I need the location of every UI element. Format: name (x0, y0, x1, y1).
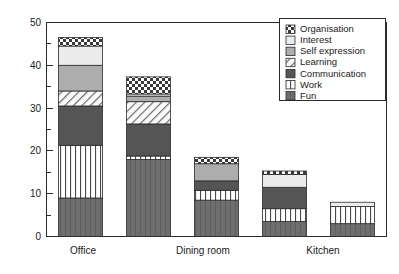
legend-label-self-expression: Self expression (300, 45, 365, 56)
y-axis-label-0: 0 (35, 231, 41, 242)
x-axis-label-office: Office (70, 245, 96, 256)
legend-swatch-communication (286, 69, 295, 77)
y-axis-label-20: 20 (30, 145, 42, 156)
x-axis-label-kitchen: Kitchen (306, 245, 339, 256)
y-axis-label-10: 10 (30, 188, 42, 199)
bar-segment-self-expression (59, 65, 103, 91)
bar-segment-fun (59, 198, 103, 237)
bar-segment-fun (331, 224, 375, 237)
bar-segment-fun (263, 222, 307, 237)
y-axis-label-30: 30 (30, 103, 42, 114)
legend-swatch-organisation (286, 25, 295, 33)
bar-group (263, 171, 307, 236)
bar-segment-self-expression (127, 96, 171, 102)
bar-segment-interest (263, 174, 307, 187)
legend-label-interest: Interest (300, 34, 332, 45)
bar-segment-work (195, 190, 239, 200)
bar-segment-communication (127, 124, 171, 156)
bar-segment-learning (127, 102, 171, 124)
legend: OrganisationInterestSelf expressionLearn… (280, 19, 386, 101)
legend-swatch-self-expression (286, 47, 295, 55)
bar-segment-communication (263, 187, 307, 208)
y-axis-label-40: 40 (30, 60, 42, 71)
bar-segment-work (127, 156, 171, 159)
bar-segment-interest (331, 202, 375, 206)
bar-segment-learning (59, 91, 103, 106)
bar-segment-fun (127, 159, 171, 236)
bar-segment-work (263, 209, 307, 222)
bar-segment-work (331, 207, 375, 224)
bar-group (331, 202, 375, 236)
bar-group (127, 77, 171, 237)
bar-segment-organisation (195, 157, 239, 163)
bar-segment-fun (195, 200, 239, 236)
legend-label-fun: Fun (300, 90, 316, 101)
x-axis-label-dining-room: Dining room (176, 245, 230, 256)
y-axis-label-50: 50 (30, 17, 42, 28)
legend-swatch-interest (286, 36, 295, 44)
stacked-bar-chart: 0 10 20 30 40 50 Office Dining room Kitc… (0, 0, 399, 274)
bar-segment-interest (59, 46, 103, 65)
legend-swatch-work (286, 81, 295, 89)
bar-group (59, 37, 103, 236)
legend-swatch-fun (286, 92, 295, 100)
legend-label-communication: Communication (300, 68, 366, 79)
legend-label-work: Work (300, 79, 322, 90)
bar-segment-organisation (127, 77, 171, 94)
legend-swatch-learning (286, 58, 295, 66)
bar-segment-self-expression (195, 164, 239, 181)
bar-segment-organisation (263, 171, 307, 174)
y-axis: 0 10 20 30 40 50 (30, 17, 53, 242)
legend-label-organisation: Organisation (300, 23, 354, 34)
bar-segment-communication (195, 181, 239, 190)
legend-label-learning: Learning (300, 56, 337, 67)
bar-segment-organisation (59, 37, 103, 46)
chart-canvas: 0 10 20 30 40 50 Office Dining room Kitc… (0, 0, 399, 274)
bar-group (195, 157, 239, 236)
bar-segment-communication (59, 106, 103, 145)
bar-segment-work (59, 145, 103, 198)
x-axis: Office Dining room Kitchen (70, 245, 340, 256)
